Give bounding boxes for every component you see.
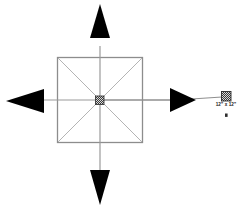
throw-arrow-up — [90, 4, 110, 38]
callout-label-block: 12" x 12" — [204, 103, 245, 108]
throw-arrow-down — [90, 170, 110, 205]
hatched-square-icon — [222, 92, 232, 102]
throw-arrow-right — [170, 88, 196, 112]
diffuser-center-marker — [96, 96, 105, 105]
diffuser-throw-diagram: 12" x 12" — [0, 0, 245, 209]
callout-sub-mark — [225, 114, 228, 117]
diffuser-size-label: 12" x 12" — [204, 103, 245, 108]
throw-arrow-left — [6, 89, 44, 113]
